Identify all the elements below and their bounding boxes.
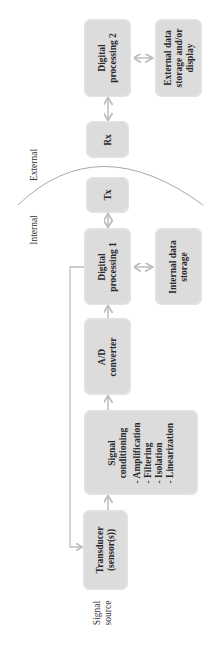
block-label: Internal data: [168, 240, 179, 294]
block-label: processing 2: [108, 33, 119, 83]
ad-converter-block: A/D converter: [84, 318, 131, 395]
block-label: conditioning: [118, 422, 129, 483]
block-label: display: [184, 29, 195, 88]
digital-processing-2-block: Digital processing 2: [84, 19, 131, 97]
internal-storage-block: Internal data storage: [155, 228, 202, 305]
block-label: Digital: [97, 242, 108, 292]
external-storage-block: External data storage and/or display: [155, 19, 202, 97]
transducer-block: Transducer (sensor(s)): [83, 510, 128, 590]
block-label: processing 1: [108, 242, 119, 292]
block-label: Signal: [107, 422, 118, 483]
signal-source-line1: Signal: [92, 593, 103, 633]
conditioning-item: - Filtering: [143, 422, 154, 483]
conditioning-item: - Isolation: [154, 422, 165, 483]
internal-region-label: Internal: [29, 205, 41, 255]
digital-processing-1-block: Digital processing 1: [84, 228, 131, 305]
block-label: storage: [179, 240, 190, 294]
block-label: storage and/or: [173, 29, 184, 88]
block-label: External data: [162, 29, 173, 88]
signal-source-label: Signal source: [92, 593, 116, 633]
rx-block: Rx: [86, 121, 129, 158]
block-label: converter: [108, 337, 119, 376]
block-label: Rx: [102, 134, 113, 146]
signal-source-line2: source: [103, 593, 114, 633]
signal-conditioning-block: Signal conditioning - Amplification - Fi…: [84, 410, 198, 495]
block-label: Transducer: [95, 527, 106, 574]
external-region-label: External: [29, 140, 41, 190]
block-label: A/D: [97, 337, 108, 376]
tx-block: Tx: [86, 177, 129, 213]
conditioning-item: - Linearization: [165, 422, 176, 483]
conditioning-list: - Amplification - Filtering - Isolation …: [132, 422, 176, 483]
block-label: Digital: [97, 33, 108, 83]
block-label: (sensor(s)): [106, 527, 117, 574]
block-label: Tx: [102, 189, 113, 200]
block-diagram: External Internal Digital processing 2 E…: [0, 0, 214, 647]
conditioning-item: - Amplification: [132, 422, 143, 483]
